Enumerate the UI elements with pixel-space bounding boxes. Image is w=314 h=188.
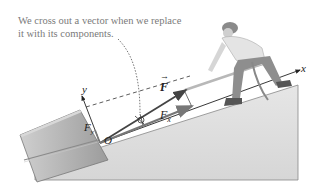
vector-arrow-glyph: → xyxy=(160,71,169,81)
annotation-pointer xyxy=(118,39,140,113)
cross-out-mark xyxy=(135,114,144,125)
origin-label: O xyxy=(104,134,112,146)
dashed-component-line xyxy=(86,76,190,107)
caption-line-1: We cross out a vector when we replace xyxy=(18,14,248,27)
y-axis-label: y xyxy=(82,83,87,95)
force-x-label: Fx xyxy=(160,108,171,124)
force-y-label: Fy xyxy=(84,121,94,136)
dashed-component-line-2 xyxy=(185,92,192,107)
force-label: → F xyxy=(160,80,168,95)
x-axis-label: x xyxy=(301,62,306,74)
annotation-caption: We cross out a vector when we replace it… xyxy=(18,14,248,40)
caption-line-2: it with its components. xyxy=(18,27,248,40)
